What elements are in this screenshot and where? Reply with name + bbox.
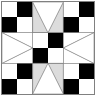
patch-black [79,63,94,78]
star-point-left [2,33,33,64]
star-point-right [63,33,94,64]
star-point-top [33,2,64,33]
patch-black [33,48,48,63]
quilt-block-svg [0,0,97,96]
patch-white [79,17,94,32]
patch-black [63,17,78,32]
patch-white [48,48,63,63]
patch-white [2,2,17,17]
patch-white [79,79,94,94]
patch-white [63,63,78,78]
corner-checkerboard-top-left [2,2,33,33]
star-point-bottom [33,63,64,94]
patch-white [33,33,48,48]
patch-black [17,2,32,17]
patch-black [2,17,17,32]
patch-white [63,2,78,17]
patch-black [63,79,78,94]
patch-white [17,17,32,32]
center-checkerboard [33,33,64,64]
patch-black [79,2,94,17]
patch-black [48,33,63,48]
quilt-block-figure [0,0,97,96]
patch-black [17,63,32,78]
patch-white [2,63,17,78]
patch-white [17,79,32,94]
patch-black [2,79,17,94]
